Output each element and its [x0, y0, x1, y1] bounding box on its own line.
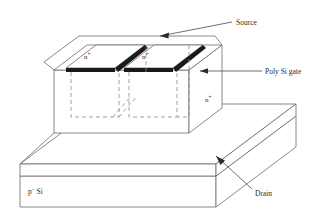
source-callout: Source	[160, 18, 257, 39]
source-contact-bar-right-front	[124, 68, 173, 72]
gate-block-rim-left-edge	[44, 62, 54, 70]
device-diagram-svg: n+ n+ n+ p− Si Source Poly Si gate Drain	[0, 0, 336, 224]
source-contact-bar-left-front	[66, 68, 115, 72]
gate-block-front-face	[54, 70, 189, 133]
p-minus-si-label: p− Si	[28, 186, 43, 196]
n-plus-layer-front-face	[20, 164, 216, 176]
substrate-front-face	[20, 176, 216, 207]
figure-canvas: n+ n+ n+ p− Si Source Poly Si gate Drain	[0, 0, 336, 224]
source-leader-line	[160, 22, 232, 36]
drain-label: Drain	[255, 189, 272, 198]
source-label: Source	[236, 18, 257, 27]
source-arrow-head	[160, 33, 169, 39]
poly-si-gate-label: Poly Si gate	[265, 67, 302, 76]
